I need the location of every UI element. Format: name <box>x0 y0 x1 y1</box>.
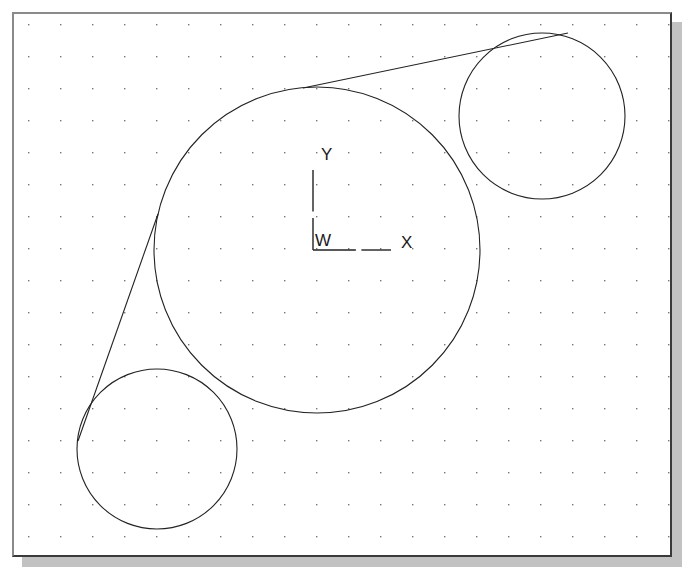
grid-dot <box>28 376 29 377</box>
grid-dot <box>668 344 669 345</box>
tangent-line-upper[interactable] <box>303 33 568 88</box>
grid-dot <box>124 504 125 505</box>
grid-dot <box>444 280 445 281</box>
grid-dot <box>636 280 637 281</box>
grid-dot <box>220 216 221 217</box>
grid-dot <box>476 504 477 505</box>
grid-dot <box>636 216 637 217</box>
grid-dot <box>316 504 317 505</box>
grid-dot <box>252 536 253 537</box>
grid-dot <box>380 344 381 345</box>
grid-dot <box>348 504 349 505</box>
grid-dot <box>284 504 285 505</box>
grid-dot <box>188 152 189 153</box>
grid-dot <box>668 472 669 473</box>
grid-dot <box>636 56 637 57</box>
grid-dot <box>348 280 349 281</box>
grid-dot <box>476 344 477 345</box>
grid-dot <box>316 440 317 441</box>
drawing-entities[interactable] <box>77 33 625 529</box>
grid-dot <box>348 24 349 25</box>
grid-dot <box>572 376 573 377</box>
grid-dot <box>316 408 317 409</box>
grid-dot <box>412 152 413 153</box>
grid-dot <box>156 120 157 121</box>
grid-dot <box>316 216 317 217</box>
grid-dot <box>220 472 221 473</box>
grid-dot <box>540 88 541 89</box>
grid-dot <box>572 56 573 57</box>
grid-dot <box>540 376 541 377</box>
grid-dot <box>572 312 573 313</box>
grid-dot <box>476 24 477 25</box>
grid-dot <box>28 440 29 441</box>
grid-dot <box>252 184 253 185</box>
grid-dot <box>92 504 93 505</box>
grid-dot <box>604 248 605 249</box>
grid-dot <box>476 536 477 537</box>
grid-dot <box>284 312 285 313</box>
grid-dot <box>412 280 413 281</box>
grid-dot <box>412 408 413 409</box>
grid-dot <box>188 280 189 281</box>
grid-dot <box>348 88 349 89</box>
grid-dot <box>252 472 253 473</box>
grid-dot <box>572 408 573 409</box>
grid-dot <box>412 312 413 313</box>
grid-dot <box>572 536 573 537</box>
circle-small-top-right[interactable] <box>459 33 625 199</box>
grid-dot <box>540 536 541 537</box>
grid-dot <box>668 280 669 281</box>
grid-dot <box>316 56 317 57</box>
grid-dot <box>252 120 253 121</box>
grid-dot <box>412 376 413 377</box>
grid-dot <box>156 312 157 313</box>
grid-dot <box>540 472 541 473</box>
grid-dot <box>188 344 189 345</box>
grid-dot <box>444 312 445 313</box>
grid-dot <box>60 312 61 313</box>
grid-dot <box>124 120 125 121</box>
grid-dot <box>316 120 317 121</box>
grid-dot <box>508 344 509 345</box>
grid-dot <box>572 184 573 185</box>
grid-dot <box>220 536 221 537</box>
grid-dot <box>220 248 221 249</box>
grid-dot <box>60 472 61 473</box>
tangent-line-lower[interactable] <box>78 214 158 441</box>
grid-dot <box>252 88 253 89</box>
grid-dot <box>668 88 669 89</box>
grid-dot <box>92 56 93 57</box>
grid-dot <box>156 440 157 441</box>
grid-dot <box>444 216 445 217</box>
grid-dot <box>92 376 93 377</box>
grid-dot <box>60 376 61 377</box>
grid-dot <box>220 152 221 153</box>
grid-dot <box>444 440 445 441</box>
grid-dot <box>636 248 637 249</box>
grid-dot <box>476 184 477 185</box>
grid-dot <box>476 152 477 153</box>
grid-dot <box>444 376 445 377</box>
grid-dot <box>380 376 381 377</box>
grid-dot <box>284 216 285 217</box>
grid-dot <box>508 376 509 377</box>
grid-dot <box>668 408 669 409</box>
grid-dot <box>380 408 381 409</box>
grid-dot <box>156 184 157 185</box>
grid-dot <box>156 408 157 409</box>
grid-dot <box>604 184 605 185</box>
grid-dot <box>508 280 509 281</box>
grid-dot <box>572 344 573 345</box>
grid-dot <box>444 24 445 25</box>
grid-dot <box>380 152 381 153</box>
grid-dot <box>604 24 605 25</box>
dot-grid <box>28 24 669 537</box>
grid-dot <box>124 472 125 473</box>
grid-dot <box>28 280 29 281</box>
grid-dot <box>412 56 413 57</box>
grid-dot <box>508 24 509 25</box>
grid-dot <box>636 152 637 153</box>
grid-dot <box>508 88 509 89</box>
drawing-canvas[interactable] <box>0 0 690 587</box>
